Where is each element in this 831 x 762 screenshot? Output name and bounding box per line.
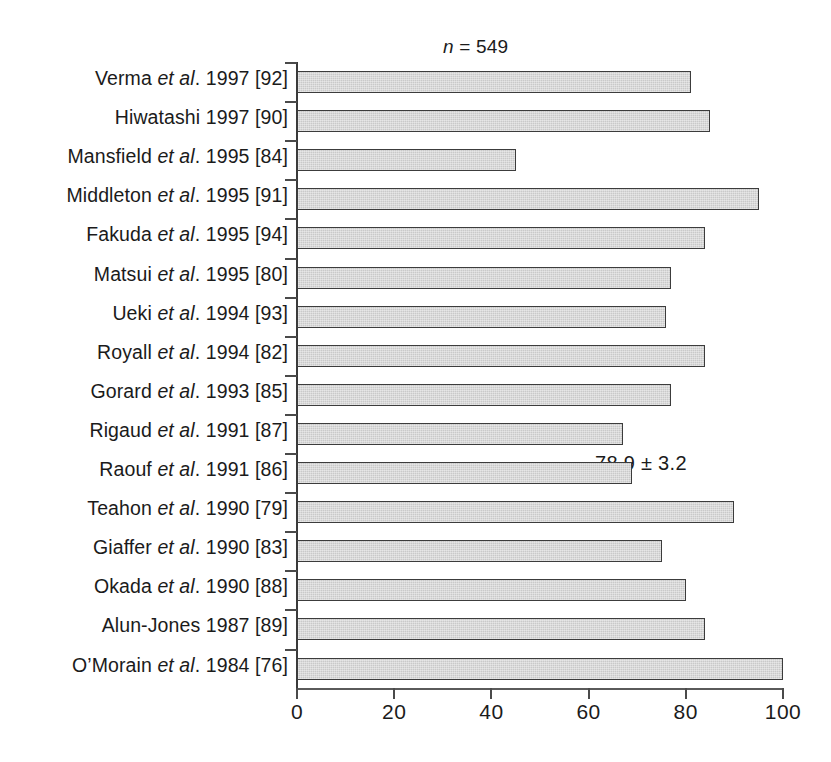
y-axis-tick — [285, 414, 297, 416]
x-axis-tick — [782, 688, 784, 699]
category-author: Gorard — [91, 380, 158, 402]
y-axis-tick — [285, 649, 297, 651]
x-axis-tick — [296, 688, 298, 699]
chart-row: Verma et al. 1997 [92] — [0, 62, 831, 101]
category-author: O’Morain — [72, 654, 157, 676]
sample-size-annotation: n = 549 — [443, 36, 508, 58]
bar — [297, 658, 783, 680]
category-author: Alun-Jones 1987 [89] — [102, 614, 288, 636]
category-etal: et al — [157, 184, 194, 206]
y-axis-tick — [285, 62, 297, 64]
bar — [297, 501, 734, 523]
bar — [297, 345, 705, 367]
x-axis-tick-label: 60 — [576, 700, 600, 724]
chart-row: Giaffer et al. 1990 [83] — [0, 531, 831, 570]
chart-row: Teahon et al. 1990 [79] — [0, 492, 831, 531]
y-axis-tick — [285, 218, 297, 220]
category-year-ref: . 1990 [88] — [195, 575, 288, 597]
category-year-ref: . 1990 [79] — [195, 497, 288, 519]
category-label: Raouf et al. 1991 [86] — [99, 459, 288, 479]
x-axis-tick-label: 0 — [291, 700, 303, 724]
category-etal: et al — [157, 145, 194, 167]
y-axis-tick — [285, 140, 297, 142]
chart-row: Fakuda et al. 1995 [94] — [0, 218, 831, 257]
y-axis-tick — [285, 375, 297, 377]
bar — [297, 306, 666, 328]
category-author: Mansfield — [68, 145, 158, 167]
category-label: Alun-Jones 1987 [89] — [102, 615, 288, 635]
chart-row: Gorard et al. 1993 [85] — [0, 375, 831, 414]
category-author: Matsui — [94, 263, 158, 285]
category-etal: et al — [157, 223, 194, 245]
chart-row: Middleton et al. 1995 [91] — [0, 179, 831, 218]
category-etal: et al — [157, 419, 194, 441]
category-label: Matsui et al. 1995 [80] — [94, 264, 288, 284]
y-axis-tick — [285, 492, 297, 494]
sample-size-value: = 549 — [454, 36, 509, 57]
category-label: Mansfield et al. 1995 [84] — [68, 146, 289, 166]
bar — [297, 618, 705, 640]
category-year-ref: . 1995 [84] — [195, 145, 288, 167]
category-year-ref: . 1994 [82] — [195, 341, 288, 363]
category-author: Teahon — [87, 497, 157, 519]
x-axis-tick — [685, 688, 687, 699]
category-label: Giaffer et al. 1990 [83] — [93, 537, 288, 557]
chart-row: Raouf et al. 1991 [86] — [0, 453, 831, 492]
category-year-ref: . 1984 [76] — [195, 654, 288, 676]
category-author: Royall — [97, 341, 157, 363]
category-author: Hiwatashi 1997 [90] — [115, 106, 288, 128]
chart-row: Mansfield et al. 1995 [84] — [0, 140, 831, 179]
category-etal: et al — [157, 575, 194, 597]
chart-row: Okada et al. 1990 [88] — [0, 570, 831, 609]
category-year-ref: . 1995 [91] — [195, 184, 288, 206]
x-axis-tick-label: 80 — [674, 700, 698, 724]
chart-row: Ueki et al. 1994 [93] — [0, 297, 831, 336]
bar-chart: n = 549 78.9 ± 3.2 Verma et al. 1997 [92… — [0, 0, 831, 762]
x-axis-tick — [490, 688, 492, 699]
category-label: Hiwatashi 1997 [90] — [115, 107, 288, 127]
y-axis-tick — [285, 336, 297, 338]
bar — [297, 71, 691, 93]
bar — [297, 384, 671, 406]
category-author: Verma — [95, 67, 157, 89]
chart-row: Hiwatashi 1997 [90] — [0, 101, 831, 140]
y-axis-tick — [285, 531, 297, 533]
category-etal: et al — [157, 497, 194, 519]
category-label: Gorard et al. 1993 [85] — [91, 381, 288, 401]
chart-row: Matsui et al. 1995 [80] — [0, 258, 831, 297]
x-axis-tick — [588, 688, 590, 699]
category-label: Teahon et al. 1990 [79] — [87, 498, 288, 518]
chart-row: O’Morain et al. 1984 [76] — [0, 649, 831, 688]
category-label: O’Morain et al. 1984 [76] — [72, 655, 288, 675]
category-author: Middleton — [66, 184, 157, 206]
y-axis-tick — [285, 453, 297, 455]
category-year-ref: . 1995 [80] — [195, 263, 288, 285]
category-year-ref: . 1991 [87] — [195, 419, 288, 441]
plot-area: Verma et al. 1997 [92]Hiwatashi 1997 [90… — [0, 62, 831, 690]
bar — [297, 188, 759, 210]
category-etal: et al — [157, 302, 194, 324]
category-year-ref: . 1990 [83] — [195, 536, 288, 558]
category-author: Okada — [94, 575, 157, 597]
category-label: Royall et al. 1994 [82] — [97, 342, 288, 362]
category-label: Rigaud et al. 1991 [87] — [89, 420, 288, 440]
category-label: Fakuda et al. 1995 [94] — [86, 224, 288, 244]
bar — [297, 462, 632, 484]
chart-row: Royall et al. 1994 [82] — [0, 336, 831, 375]
category-year-ref: . 1991 [86] — [195, 458, 288, 480]
bar — [297, 579, 686, 601]
category-label: Okada et al. 1990 [88] — [94, 576, 288, 596]
category-label: Verma et al. 1997 [92] — [95, 68, 288, 88]
category-year-ref: . 1994 [93] — [195, 302, 288, 324]
x-axis-tick-label: 40 — [479, 700, 503, 724]
chart-row: Rigaud et al. 1991 [87] — [0, 414, 831, 453]
category-etal: et al — [157, 67, 194, 89]
bar — [297, 227, 705, 249]
category-year-ref: . 1997 [92] — [195, 67, 288, 89]
category-etal: et al — [157, 536, 194, 558]
bar — [297, 149, 516, 171]
category-author: Giaffer — [93, 536, 157, 558]
x-axis-tick — [393, 688, 395, 699]
category-label: Ueki et al. 1994 [93] — [112, 303, 288, 323]
y-axis-tick — [285, 101, 297, 103]
